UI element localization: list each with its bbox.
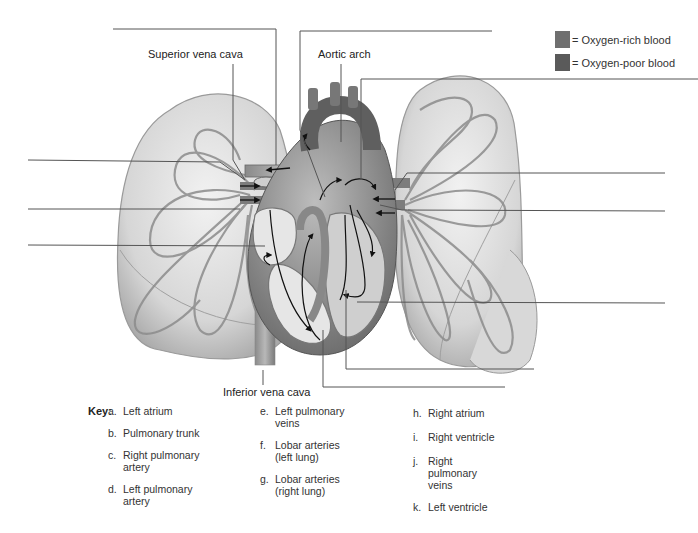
key-letter: k.	[413, 501, 427, 513]
key-item: j. Right pulmonary veins	[413, 455, 523, 491]
key-text: Right ventricle	[428, 431, 523, 443]
key-column-2: e. Left pulmonary veins f. Lobar arterie…	[260, 405, 345, 507]
key-item: a. Left atrium	[108, 405, 218, 417]
key-item: h. Right atrium	[413, 407, 523, 419]
key-item: f. Lobar arteries (left lung)	[260, 439, 345, 463]
key-item: g. Lobar arteries (right lung)	[260, 473, 345, 497]
key-text: Right pulmonary artery	[123, 449, 203, 473]
oxygen-rich-swatch	[555, 31, 570, 48]
key-column-3: h. Right atrium i. Right ventricle j. Ri…	[413, 405, 523, 523]
key-text: Left pulmonary veins	[275, 405, 345, 429]
legend-label: = Oxygen-rich blood	[572, 34, 671, 46]
key-text: Lobar arteries (right lung)	[275, 473, 340, 497]
key-letter: f.	[260, 439, 274, 451]
key-letter: d.	[108, 483, 122, 495]
key-item: d. Left pulmonary artery	[108, 483, 218, 507]
aortic-arch-label: Aortic arch	[318, 48, 371, 60]
key-item: c. Right pulmonary artery	[108, 449, 218, 473]
blood-legend: = Oxygen-rich blood = Oxygen-poor blood	[555, 30, 675, 76]
key-item: e. Left pulmonary veins	[260, 405, 345, 429]
key-column-1: a. Left atrium b. Pulmonary trunk c. Rig…	[108, 405, 218, 517]
left-lung	[395, 76, 537, 373]
legend-oxygen-poor: = Oxygen-poor blood	[555, 53, 675, 72]
superior-vena-cava-label: Superior vena cava	[148, 48, 243, 60]
key-item: k. Left ventricle	[413, 501, 523, 513]
pulmonary-circulation-diagram	[0, 0, 698, 533]
key-letter: c.	[108, 449, 122, 461]
key-text: Right pulmonary veins	[428, 455, 498, 491]
key-letter: b.	[108, 427, 122, 439]
legend-oxygen-rich: = Oxygen-rich blood	[555, 30, 675, 49]
key-letter: j.	[413, 455, 427, 467]
key-item: i. Right ventricle	[413, 431, 523, 443]
inferior-vena-cava-label: Inferior vena cava	[223, 386, 310, 398]
key-item: b. Pulmonary trunk	[108, 427, 218, 439]
key-text: Left ventricle	[428, 501, 523, 513]
key-letter: a.	[108, 405, 122, 417]
key-text: Right atrium	[428, 407, 523, 419]
key-letter: e.	[260, 405, 274, 417]
key-text: Lobar arteries (left lung)	[275, 439, 340, 463]
key-letter: i.	[413, 431, 427, 443]
key-letter: h.	[413, 407, 427, 419]
key-text: Left atrium	[123, 405, 218, 417]
key-letter: g.	[260, 473, 274, 485]
key-text: Pulmonary trunk	[123, 427, 218, 439]
legend-label: = Oxygen-poor blood	[572, 57, 675, 69]
key-text: Left pulmonary artery	[123, 483, 203, 507]
oxygen-poor-swatch	[555, 54, 570, 71]
